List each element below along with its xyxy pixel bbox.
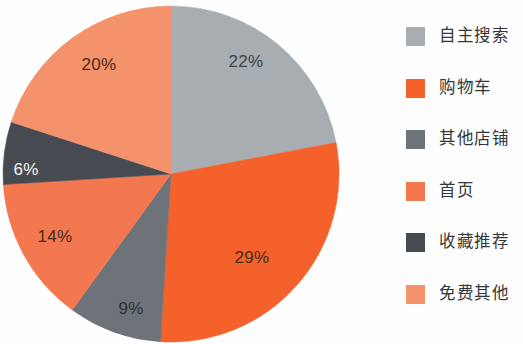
legend-item[interactable]: 免费其他 bbox=[406, 282, 523, 307]
legend-swatch-icon bbox=[406, 27, 425, 46]
legend-item[interactable]: 自主搜索 bbox=[406, 24, 523, 49]
legend-item[interactable]: 购物车 bbox=[406, 76, 523, 101]
pie-slice-value-label: 29% bbox=[235, 248, 270, 267]
legend-item-label: 其他店铺 bbox=[439, 131, 509, 148]
legend-item[interactable]: 其他店铺 bbox=[406, 127, 523, 152]
pie-slice-value-label: 14% bbox=[38, 227, 73, 246]
pie-chart-figure: 22%29%9%14%6%20% 自主搜索 购物车 其他店铺 首页 收藏推荐 免… bbox=[0, 0, 523, 344]
legend-item-label: 自主搜索 bbox=[439, 28, 509, 45]
pie-slice-value-label: 6% bbox=[13, 160, 38, 179]
pie-slice[interactable] bbox=[160, 143, 339, 342]
legend-item[interactable]: 首页 bbox=[406, 179, 523, 204]
legend-swatch-icon bbox=[406, 233, 425, 252]
pie-slice-group bbox=[3, 6, 339, 342]
legend-swatch-icon bbox=[406, 182, 425, 201]
legend-item-label: 首页 bbox=[439, 183, 474, 200]
legend-swatch-icon bbox=[406, 79, 425, 98]
pie-slice-value-label: 9% bbox=[118, 299, 143, 318]
pie-chart-svg: 22%29%9%14%6%20% bbox=[0, 0, 380, 344]
legend-swatch-icon bbox=[406, 285, 425, 304]
legend-item[interactable]: 收藏推荐 bbox=[406, 230, 523, 255]
legend-item-label: 购物车 bbox=[439, 80, 492, 97]
pie-slice-value-label: 22% bbox=[229, 52, 264, 71]
pie-slice-value-label: 20% bbox=[82, 55, 117, 74]
chart-legend: 自主搜索 购物车 其他店铺 首页 收藏推荐 免费其他 bbox=[406, 0, 523, 344]
legend-item-label: 收藏推荐 bbox=[439, 234, 509, 251]
legend-item-label: 免费其他 bbox=[439, 286, 509, 303]
pie-chart-plot-area: 22%29%9%14%6%20% bbox=[0, 0, 380, 344]
legend-swatch-icon bbox=[406, 130, 425, 149]
